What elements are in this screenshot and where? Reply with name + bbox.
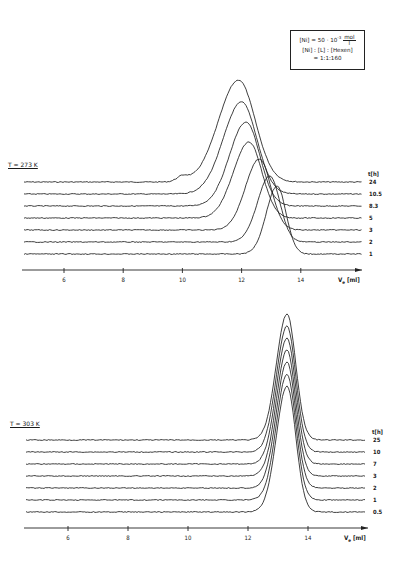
series-label: 0.5 <box>373 509 383 515</box>
series-label: 25 <box>373 437 381 443</box>
trace-24h <box>24 80 362 182</box>
x-tick-label: 14 <box>305 534 312 541</box>
legend-title: t[h] <box>372 429 383 435</box>
x-tick-label: 12 <box>245 534 252 541</box>
x-axis-label: Ve [ml] <box>338 276 360 285</box>
series-label: 24 <box>369 179 377 185</box>
x-tick-label: 12 <box>238 276 245 283</box>
series-label: 3 <box>369 227 373 233</box>
x-axis-label: Ve [ml] <box>344 534 366 543</box>
series-label: 1 <box>373 497 377 503</box>
figure: 68101214Ve [ml]t[h]2410.58.3532168101214… <box>0 0 410 569</box>
trace-2h <box>24 176 362 242</box>
series-label: 5 <box>369 215 373 221</box>
trace-25h <box>26 314 365 441</box>
bottom-303K-panel: 68101214Ve [ml]t[h]251073210.5 <box>24 314 383 543</box>
series-label: 1 <box>369 251 373 257</box>
series-label: 10 <box>373 449 381 455</box>
top-273K-panel: 68101214Ve [ml]t[h]2410.58.35321 <box>22 80 382 284</box>
x-tick-label: 14 <box>297 276 304 283</box>
annotation-line-2: [Ni] : [L] : [Hexen] <box>291 46 364 54</box>
annotation-line-3: = 1:1:160 <box>291 54 364 62</box>
x-axis-arrow-icon <box>355 268 362 272</box>
x-tick-label: 6 <box>66 534 70 541</box>
x-tick-label: 8 <box>126 534 130 541</box>
series-label: 10.5 <box>369 191 382 197</box>
annotation-line-1: [Ni] = 50 · 10-3 mol l <box>291 34 364 46</box>
chart-canvas: 68101214Ve [ml]t[h]2410.58.3532168101214… <box>0 0 410 569</box>
x-tick-label: 8 <box>121 276 125 283</box>
legend-title: t[h] <box>368 171 379 177</box>
trace-1h <box>24 186 362 254</box>
annotation-unit-fraction: mol l <box>343 35 355 46</box>
temperature-label-top: T = 273 K <box>8 161 38 168</box>
temperature-label-bottom: T = 303 K <box>10 420 40 427</box>
series-label: 8.3 <box>369 203 379 209</box>
trace-5h <box>24 142 362 219</box>
trace-2h <box>26 362 365 489</box>
x-tick-label: 10 <box>179 276 186 283</box>
trace-0_5h <box>26 386 365 513</box>
series-label: 7 <box>373 461 377 467</box>
x-axis-arrow-icon <box>361 526 368 530</box>
conditions-annotation-box: [Ni] = 50 · 10-3 mol l [Ni] : [L] : [Hex… <box>290 30 365 70</box>
trace-3h <box>26 350 365 476</box>
annotation-unit-denominator: l <box>349 40 351 46</box>
annotation-concentration: [Ni] = 50 · 10 <box>299 37 337 43</box>
trace-3h <box>24 159 362 230</box>
trace-10h <box>26 326 365 453</box>
series-label: 3 <box>373 473 377 479</box>
series-label: 2 <box>369 239 373 245</box>
x-tick-label: 6 <box>62 276 66 283</box>
trace-1h <box>26 374 365 500</box>
x-tick-label: 10 <box>185 534 192 541</box>
trace-10_5h <box>24 102 362 195</box>
annotation-exponent: -3 <box>337 35 341 40</box>
trace-7h <box>26 338 365 465</box>
series-label: 2 <box>373 485 377 491</box>
